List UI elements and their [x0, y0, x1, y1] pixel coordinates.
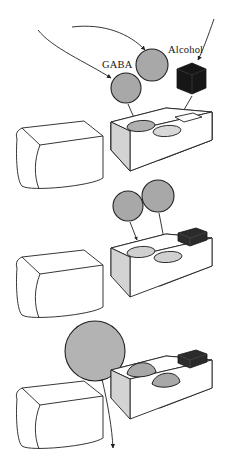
- gaba-molecule-2: [111, 73, 141, 103]
- membrane-block: [16, 381, 103, 449]
- membrane-block: [16, 250, 103, 318]
- alcohol-cube: [177, 63, 206, 94]
- gaba-receptor-diagram: GABA Alcohol: [0, 0, 243, 469]
- gaba-molecule-1: [113, 191, 143, 221]
- gaba-label: GABA: [102, 59, 133, 70]
- gaba-molecule-2: [142, 180, 174, 212]
- gaba-molecule-1: [136, 49, 168, 81]
- alcohol-label: Alcohol: [168, 44, 203, 55]
- membrane-block: [16, 121, 103, 189]
